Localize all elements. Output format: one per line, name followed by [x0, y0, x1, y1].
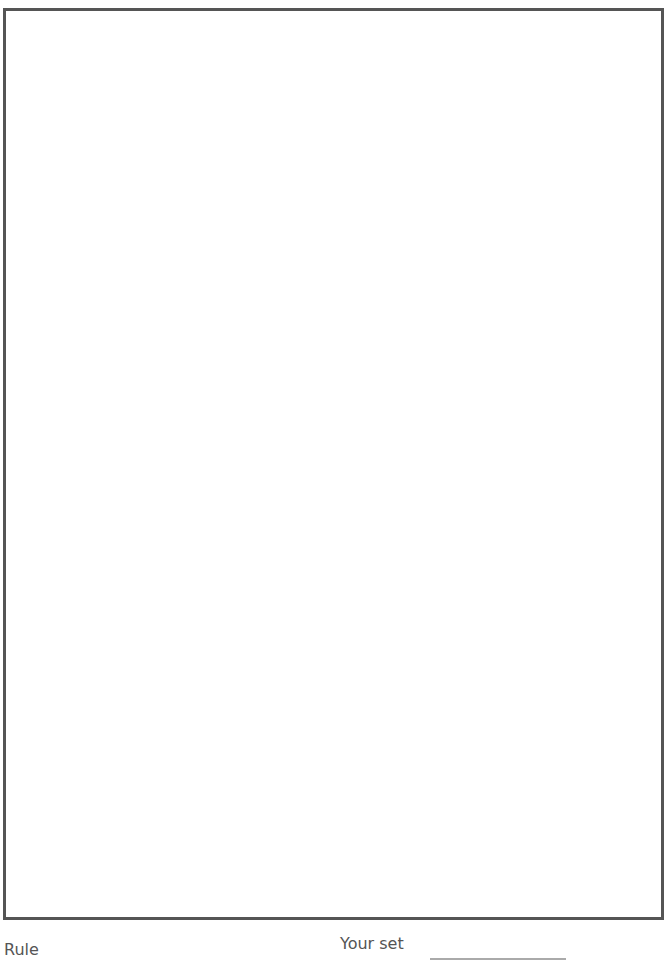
- rule-label: Rule: [4, 940, 39, 959]
- your-set-input-line[interactable]: [430, 958, 566, 960]
- puzzle-frame: [3, 8, 664, 920]
- your-set-label: Your set: [340, 934, 404, 953]
